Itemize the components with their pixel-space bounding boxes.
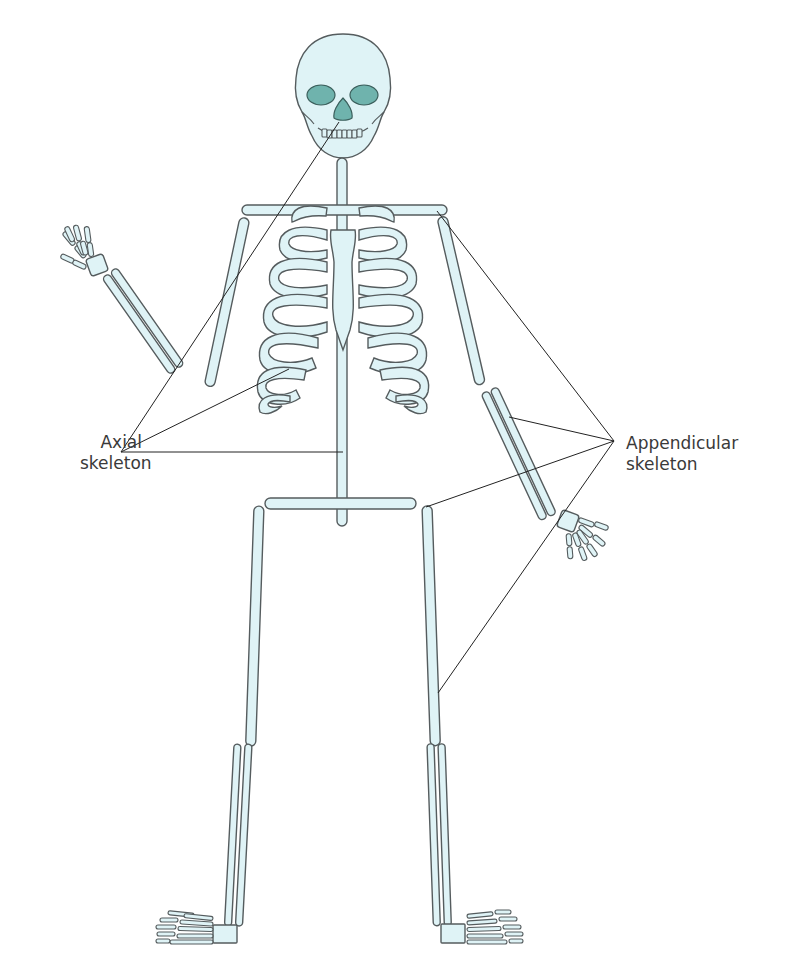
leg-right (422, 506, 523, 944)
arm-left (60, 217, 250, 387)
appendicular-skeleton-label: Appendicular skeleton (626, 433, 738, 475)
eye-socket-left (307, 85, 335, 105)
shoulder-girdle (242, 205, 447, 215)
pelvic-girdle (265, 498, 416, 509)
axial-label-line1: Axial (80, 432, 142, 453)
skull (295, 34, 390, 158)
axial-label-line2: skeleton (80, 453, 142, 474)
appendicular-label-line2: skeleton (626, 454, 738, 475)
appendicular-label-line1: Appendicular (626, 433, 738, 454)
sternum (330, 230, 355, 350)
teeth (322, 129, 362, 138)
leg-left (156, 506, 264, 944)
skeleton-diagram (0, 0, 785, 965)
eye-socket-right (350, 85, 378, 105)
arm-right (437, 216, 609, 561)
axial-skeleton-label: Axial skeleton (80, 432, 142, 474)
